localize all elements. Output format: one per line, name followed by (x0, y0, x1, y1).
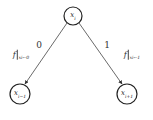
node-left-sub: i−1 (18, 94, 26, 99)
restriction-bar (17, 50, 18, 60)
restriction-bar (128, 50, 129, 60)
edge-right-function: fxi←1 (124, 50, 140, 61)
node-root-sub: i (74, 16, 75, 21)
edge-left-function: fxi←0 (13, 50, 29, 61)
edge-right-label: 1 (104, 40, 110, 50)
function-name: f (13, 50, 16, 59)
node-right-label: xi+1 (121, 89, 133, 98)
node-left-label: xi−1 (14, 89, 26, 98)
function-name: f (124, 50, 127, 59)
node-right-sub: i+1 (125, 94, 133, 99)
node-root-label: xi (70, 11, 75, 20)
restriction-assign: ←0 (23, 55, 30, 60)
edge-left-label: 0 (36, 40, 42, 50)
restriction-assign: ←1 (134, 55, 141, 60)
edge-root-left (25, 23, 67, 84)
edge-root-right (79, 23, 122, 84)
